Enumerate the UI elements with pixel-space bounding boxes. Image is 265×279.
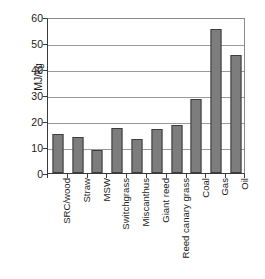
bar-slot <box>48 19 68 173</box>
bar[interactable] <box>72 137 83 173</box>
bar[interactable] <box>171 125 182 173</box>
bar[interactable] <box>52 134 63 173</box>
bar[interactable] <box>211 29 222 173</box>
x-axis-label-slot: Miscanthus <box>129 178 143 276</box>
x-axis-label-slot: Straw <box>70 178 84 276</box>
plot-area <box>47 18 245 174</box>
y-axis-tick-label: 50 <box>21 39 43 49</box>
y-axis-tick-label: 40 <box>21 65 43 75</box>
y-axis-tick-label: 60 <box>21 13 43 23</box>
x-axis-label-slot: Gas <box>208 178 222 276</box>
bar-slot <box>107 19 127 173</box>
y-axis-tick-labels: 0102030405060 <box>21 0 43 279</box>
bar[interactable] <box>231 55 242 173</box>
y-axis-tick-label: 30 <box>21 91 43 101</box>
bar[interactable] <box>151 129 162 173</box>
x-axis-label-slot: MSW <box>90 178 104 276</box>
x-axis-label-slot: Reed canary grass <box>169 178 183 276</box>
x-axis-label-slot: Giant reed <box>149 178 163 276</box>
x-axis-label-slot: Switchgrass <box>109 178 123 276</box>
bars-group <box>48 19 244 173</box>
bar[interactable] <box>92 150 103 173</box>
x-axis-label-slot: Oil <box>228 178 242 276</box>
bar[interactable] <box>112 128 123 173</box>
bar-slot <box>127 19 147 173</box>
bar[interactable] <box>191 99 202 173</box>
bar-slot <box>206 19 226 173</box>
x-axis-label-slot: SRC/wood <box>50 178 64 276</box>
bar[interactable] <box>132 139 143 173</box>
bar-slot <box>88 19 108 173</box>
bar-slot <box>187 19 207 173</box>
y-axis-tick-label: 0 <box>21 169 43 179</box>
y-axis-tick-label: 20 <box>21 117 43 127</box>
y-axis-tick-label: 10 <box>21 143 43 153</box>
bar-slot <box>147 19 167 173</box>
bar-slot <box>167 19 187 173</box>
x-axis-category-labels: SRC/woodStrawMSWSwitchgrassMiscanthusGia… <box>47 178 245 278</box>
x-axis-label-slot: Coal <box>189 178 203 276</box>
bar-slot <box>68 19 88 173</box>
bar-chart: MJ/kg 0102030405060 SRC/woodStrawMSWSwit… <box>0 0 265 279</box>
x-axis-category-label: Oil <box>240 178 250 190</box>
bar-slot <box>226 19 246 173</box>
